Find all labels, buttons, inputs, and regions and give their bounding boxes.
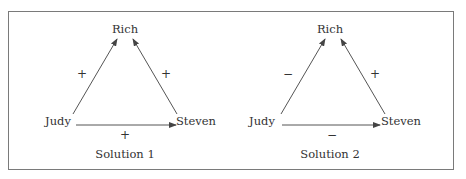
sign-judy-rich: −	[283, 67, 293, 81]
sign-judy-steven: +	[120, 128, 130, 142]
panel-solution-1: Rich Judy Steven + + + Solution 1	[44, 22, 217, 161]
caption-solution-2: Solution 2	[300, 147, 360, 161]
node-judy: Judy	[44, 114, 71, 128]
node-judy: Judy	[248, 114, 275, 128]
sign-steven-rich: +	[161, 67, 171, 81]
sign-judy-steven: −	[327, 128, 337, 142]
sign-judy-rich: +	[77, 67, 87, 81]
node-rich: Rich	[112, 22, 139, 36]
node-steven: Steven	[176, 114, 217, 128]
node-steven: Steven	[381, 114, 422, 128]
balance-diagrams: Rich Judy Steven + + + Solution 1 Rich J…	[0, 0, 466, 179]
caption-solution-1: Solution 1	[95, 147, 155, 161]
node-rich: Rich	[317, 22, 344, 36]
panel-solution-2: Rich Judy Steven − + − Solution 2	[248, 22, 422, 161]
sign-steven-rich: +	[370, 67, 380, 81]
